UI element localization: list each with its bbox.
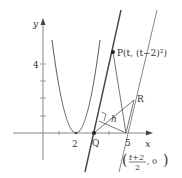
y-axis-arrow-icon: [41, 18, 46, 25]
x-axis-label: x: [145, 138, 151, 149]
point-p: [111, 50, 115, 54]
point-vertex: [75, 132, 77, 134]
right-angle-marker: [102, 112, 107, 121]
paren-close: ): [163, 152, 168, 168]
distance-h-label: h: [111, 114, 117, 124]
parabola-curve: [52, 40, 100, 133]
axes: [13, 18, 153, 160]
x-tick-label-2: 2: [72, 139, 78, 149]
midpoint-denominator: 2: [135, 163, 140, 172]
point-r-label: R: [137, 94, 144, 104]
midpoint-numerator: t+2: [129, 153, 144, 162]
midpoint-rest: , 0: [147, 157, 157, 166]
point-q-label: Q: [92, 138, 99, 148]
point-q: [92, 131, 96, 135]
paren-open: (: [122, 152, 127, 168]
midpoint-label: ( t+2 2 , 0 ): [122, 152, 168, 172]
y-axis-label: y: [32, 19, 39, 29]
diagram-canvas: y x 4 2 5 P(t, (t−2)²) Q R h ( t+2 2 , 0…: [0, 0, 182, 178]
x-tick-label-5: 5: [125, 138, 131, 148]
point-p-label: P(t, (t−2)²): [117, 48, 167, 58]
tangent-line: [85, 10, 121, 172]
y-tick-label-4: 4: [33, 60, 39, 70]
x-axis-arrow-icon: [146, 131, 153, 136]
segment-r-mid: [126, 100, 134, 133]
